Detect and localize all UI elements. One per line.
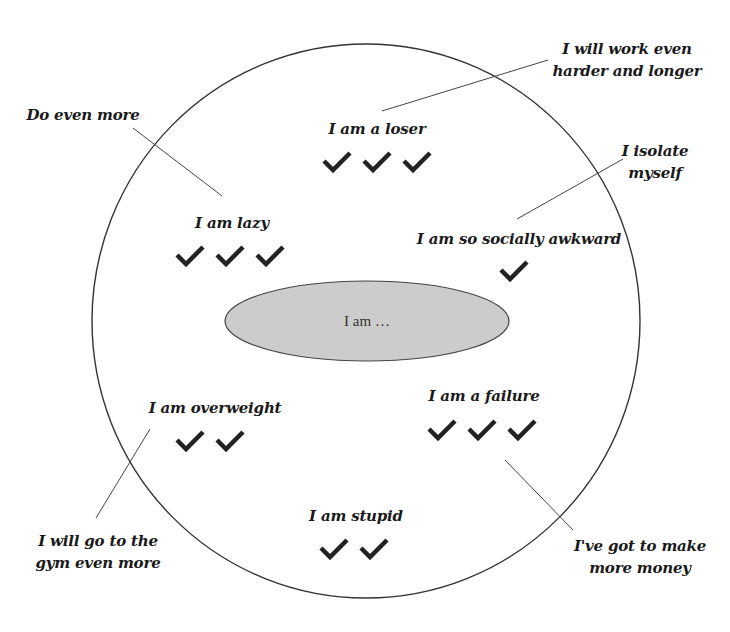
response-money: I've got to make more money [574, 535, 706, 579]
check-group-lazy [174, 244, 286, 268]
check-mark-icon [498, 259, 530, 283]
check-mark-icon [321, 150, 353, 174]
belief-label-failure: I am a failure [428, 385, 539, 407]
response-money-line2: more money [574, 557, 706, 579]
check-group-socially-awkward [498, 259, 530, 283]
connector-line-gym [96, 429, 150, 518]
belief-label-stupid: I am stupid [309, 505, 403, 527]
response-gym-line1: I will go to the [36, 530, 161, 552]
response-work-line1: I will work even [552, 38, 701, 60]
response-do-more: Do even more [26, 104, 139, 126]
connector-line-money [505, 460, 573, 530]
response-money-line1: I've got to make [574, 535, 706, 557]
response-gym: I will go to the gym even more [36, 530, 161, 574]
check-group-failure [426, 418, 538, 442]
belief-label-lazy: I am lazy [195, 212, 269, 234]
check-mark-icon [174, 429, 206, 453]
check-mark-icon [214, 244, 246, 268]
check-mark-icon [214, 429, 246, 453]
check-mark-icon [466, 418, 498, 442]
connector-line-do-more [133, 128, 222, 196]
check-group-loser [321, 150, 433, 174]
belief-label-loser: I am a loser [328, 118, 425, 140]
response-work: I will work even harder and longer [552, 38, 701, 82]
response-gym-line2: gym even more [36, 552, 161, 574]
check-mark-icon [174, 244, 206, 268]
belief-label-overweight: I am overweight [149, 397, 282, 419]
check-mark-icon [318, 537, 350, 561]
check-mark-icon [358, 537, 390, 561]
check-mark-icon [254, 244, 286, 268]
check-mark-icon [506, 418, 538, 442]
response-isolate: I isolate myself [622, 140, 688, 184]
check-mark-icon [361, 150, 393, 174]
check-mark-icon [401, 150, 433, 174]
belief-label-socially-awkward: I am so socially awkward [417, 228, 621, 250]
check-group-stupid [318, 537, 390, 561]
center-label: I am … [344, 313, 390, 330]
response-isolate-line2: myself [622, 162, 688, 184]
connector-line-work [382, 60, 548, 111]
check-group-overweight [174, 429, 246, 453]
check-mark-icon [426, 418, 458, 442]
response-work-line2: harder and longer [552, 60, 701, 82]
response-do-more-line1: Do even more [26, 104, 139, 126]
response-isolate-line1: I isolate [622, 140, 688, 162]
